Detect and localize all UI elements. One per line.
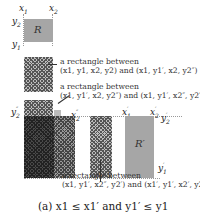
rectangle-R-prime: R′	[125, 116, 154, 178]
rectangle-R: R	[24, 19, 53, 42]
rectangle-R-prime-label: R′	[135, 138, 145, 149]
figure-caption: (a) x1 ≤ x1′ and y1′ ≤ y1	[38, 200, 168, 212]
annotation-1: a rectangle between (x1, y1, x2, y2) and…	[60, 58, 197, 75]
annotation-3: a rectangle between (x1, y1′, x2″, y2′) …	[62, 172, 200, 189]
label-y1: y1	[12, 40, 21, 52]
rectangle-R-label: R	[34, 24, 42, 35]
marker-square	[54, 110, 61, 116]
hatched-rectangle-2b	[54, 116, 75, 178]
hatched-rectangle-3	[90, 116, 112, 178]
label-y2pp: y2″	[11, 104, 18, 120]
annotation-2-line2: (x1, y1′, x2, y2″) and (x1, y1′, x2″, y2…	[60, 92, 200, 101]
leader-line-1	[48, 64, 57, 65]
hatched-rectangle-dark	[24, 116, 54, 178]
annotation-3-line2: (x1, y1′, x2″, y2′) and (x1′, y1′, x2′, …	[62, 181, 200, 190]
label-x2: x2	[49, 4, 58, 16]
annotation-2: a rectangle between (x1, y1′, x2, y2″) a…	[60, 83, 200, 100]
hatched-rectangle-2a	[24, 100, 53, 116]
annotation-1-line2: (x1, y1, x2, y2) and (x1, y1′, x2, y2″)	[60, 67, 197, 76]
label-y2p: y2′	[161, 110, 167, 126]
label-x1: x1	[19, 4, 28, 16]
label-y2: y2	[12, 17, 21, 29]
hatched-rectangle-1	[24, 57, 53, 92]
